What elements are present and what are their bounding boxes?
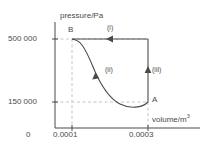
y-tick-label-500000: 500 000 [8, 35, 37, 43]
process-ii-arrowhead [92, 72, 99, 79]
y-axis-title: pressure/Pa [60, 12, 103, 20]
x-axis-title-exponent: 3 [187, 113, 190, 119]
x-axis-title-text: volume/m [152, 115, 187, 124]
process-label-ii: (ii) [105, 66, 113, 73]
plot-canvas [0, 0, 207, 153]
process-iii-arrowhead [145, 66, 152, 73]
y-tick-label-150000: 150 000 [8, 98, 37, 106]
x-tick-label-0-0001: 0.0001 [53, 131, 77, 139]
point-label-a: A [152, 96, 157, 104]
x-tick-label-0: 0 [26, 131, 30, 139]
x-tick-label-0-0003: 0.0003 [129, 131, 153, 139]
process-label-i: (i) [107, 24, 113, 31]
x-axis-title: volume/m3 [152, 114, 190, 124]
process-i-arrowhead [106, 36, 113, 43]
pv-cycle-figure: pressure/Pa volume/m3 500 000 150 000 0 … [0, 0, 207, 153]
process-ii-curve [72, 39, 148, 107]
process-label-iii: (iii) [152, 66, 161, 73]
point-label-b: B [68, 26, 73, 34]
